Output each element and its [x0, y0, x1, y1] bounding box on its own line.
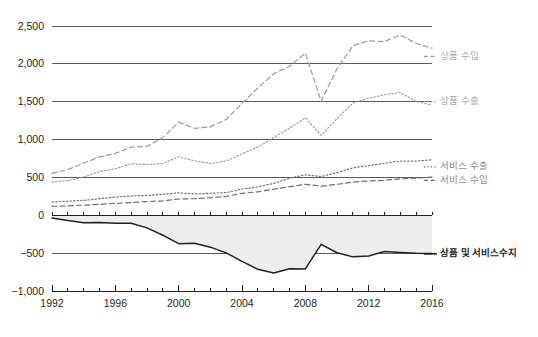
x-tick-label: 2016 — [420, 297, 444, 309]
x-tick-label: 1996 — [104, 297, 128, 309]
y-tick-label: −1,000 — [12, 285, 45, 297]
y-tick-labels: 2,5002,0001,5001,0005000−500−1,000 — [12, 20, 45, 297]
balance-area — [52, 215, 432, 273]
legend-label-2: 서비스 수출 — [440, 160, 488, 171]
y-tick-label: 500 — [26, 171, 44, 183]
line-chart: 2,5002,0001,5001,0005000−500−1,000 19921… — [0, 0, 538, 337]
series-line-0 — [52, 35, 432, 173]
x-axis — [52, 285, 432, 291]
x-tick-label: 2012 — [357, 297, 381, 309]
legend-label-3: 서비스 수입 — [440, 174, 488, 185]
y-tick-label: 1,500 — [18, 95, 44, 107]
legend: 상품 수입상품 수출서비스 수출서비스 수입상품 및 서비스수지 — [424, 50, 517, 259]
x-tick-label: 2000 — [167, 297, 191, 309]
y-tick-label: 2,000 — [18, 57, 44, 69]
x-tick-labels: 1992199620002004200820122016 — [40, 297, 444, 309]
legend-label-1: 상품 수출 — [440, 95, 479, 106]
y-tick-label: 1,000 — [18, 133, 44, 145]
series-line-3 — [52, 177, 432, 206]
zero-axis-line — [52, 212, 432, 216]
x-tick-label: 2004 — [230, 297, 254, 309]
y-tick-label: 2,500 — [18, 20, 44, 32]
x-tick-label: 2008 — [294, 297, 318, 309]
legend-label-4: 상품 및 서비스수지 — [440, 247, 517, 258]
y-tick-label: 0 — [38, 209, 44, 221]
y-tick-label: −500 — [20, 247, 44, 259]
legend-label-0: 상품 수입 — [440, 50, 479, 61]
chart-container: 2,5002,0001,5001,0005000−500−1,000 19921… — [0, 0, 538, 337]
x-tick-label: 1992 — [40, 297, 64, 309]
balance-area-fill — [52, 215, 432, 273]
series-line-1 — [52, 93, 432, 182]
